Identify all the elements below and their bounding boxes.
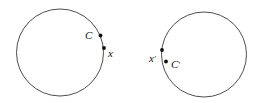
point-x-prime-dot	[160, 48, 164, 52]
point-C-dot	[99, 34, 103, 38]
label-x: x	[107, 47, 113, 59]
label-C-prime-mark-2: ′	[178, 61, 180, 70]
label-x-prime-mark-2: ′	[154, 55, 156, 64]
geometry-diagram: C x x′ C′	[0, 0, 261, 103]
label-C-text: C	[85, 29, 93, 41]
point-x-dot	[102, 46, 106, 50]
label-x-text: x	[107, 47, 113, 59]
label-C: C	[85, 29, 93, 41]
figure-canvas: C x x′ C′	[0, 0, 261, 103]
point-C-prime-dot	[164, 60, 168, 64]
